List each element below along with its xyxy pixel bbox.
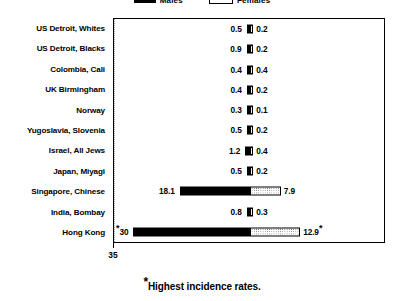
bar-rows: 0.50.20.90.20.40.40.40.20.30.10.50.21.20… <box>114 19 384 242</box>
bar-male <box>133 227 250 236</box>
footnote-text: Highest incidence rates. <box>148 281 261 292</box>
axis-tick-label: 35 <box>108 250 117 260</box>
axis-ticks <box>113 243 385 249</box>
bar-female <box>250 106 253 115</box>
bar-female <box>250 126 253 135</box>
bar-row: 0.50.2 <box>114 120 384 140</box>
value-label-female: 0.3 <box>256 207 267 217</box>
category-label: US Detroit, Whites <box>0 18 110 38</box>
value-label-female: 0.2 <box>256 85 267 95</box>
value-label-female: 7.9 <box>284 186 295 196</box>
bar-female <box>250 227 300 236</box>
value-label-female: 0.2 <box>256 24 267 34</box>
value-label-male: 0.5 <box>231 24 242 34</box>
value-label-female: 0.2 <box>256 166 267 176</box>
legend-label-females: Females <box>237 0 270 5</box>
bar-female <box>250 166 253 175</box>
bar-row: 0.50.2 <box>114 19 384 39</box>
category-label: UK Birmingham <box>0 79 110 99</box>
category-label: Norway <box>0 100 110 120</box>
bar-row: 18.17.9 <box>114 181 384 201</box>
bar-female <box>250 146 253 155</box>
category-label: Israel, All Jews <box>0 141 110 161</box>
value-label-male: 0.5 <box>231 166 242 176</box>
bar-row: *3012.9* <box>114 222 384 242</box>
value-label-female: 0.1 <box>256 105 267 115</box>
value-label-female: 12.9* <box>303 227 322 237</box>
bar-row: 1.20.4 <box>114 141 384 161</box>
chart-legend: Males Females <box>0 0 404 5</box>
category-label: Singapore, Chinese <box>0 182 110 202</box>
bar-row: 0.40.4 <box>114 60 384 80</box>
value-label-male: 0.3 <box>231 105 242 115</box>
category-label: Hong Kong <box>0 223 110 243</box>
star-marker-icon: * <box>319 223 322 233</box>
value-label-male: 0.4 <box>231 85 242 95</box>
bar-row: 0.40.2 <box>114 80 384 100</box>
footnote: *Highest incidence rates. <box>0 281 404 292</box>
value-label-female: 0.4 <box>256 65 267 75</box>
category-label: Japan, Miyagi <box>0 161 110 181</box>
value-label-male: 0.5 <box>231 125 242 135</box>
value-label-male: 0.4 <box>231 65 242 75</box>
value-label-male: *30 <box>116 227 128 237</box>
value-label-male: 0.9 <box>230 44 241 54</box>
category-label: Yugoslavia, Slovenia <box>0 120 110 140</box>
category-label: Colombia, Cali <box>0 59 110 79</box>
value-label-female: 0.2 <box>256 125 267 135</box>
bar-female <box>250 207 253 216</box>
legend-entry-males: Males <box>134 0 183 5</box>
legend-swatch-males-icon <box>134 0 156 3</box>
bar-row: 0.30.1 <box>114 100 384 120</box>
bar-female <box>250 85 253 94</box>
bar-row: 0.90.2 <box>114 39 384 59</box>
bar-row: 0.50.2 <box>114 161 384 181</box>
value-label-male: 18.1 <box>159 186 175 196</box>
legend-label-males: Males <box>160 0 183 5</box>
axis-tick <box>113 243 114 248</box>
bar-female <box>250 25 253 34</box>
star-marker-icon: * <box>116 223 119 233</box>
category-label: India, Bombay <box>0 202 110 222</box>
category-labels: US Detroit, WhitesUS Detroit, BlacksColo… <box>0 18 110 243</box>
bar-female <box>250 65 253 74</box>
bar-female <box>250 187 281 196</box>
value-label-male: 0.8 <box>231 207 242 217</box>
bar-female <box>250 45 253 54</box>
category-label: US Detroit, Blacks <box>0 38 110 58</box>
bar-male <box>180 187 250 196</box>
bar-row: 0.80.3 <box>114 201 384 221</box>
plot-area: 0.50.20.90.20.40.40.40.20.30.10.50.21.20… <box>113 18 385 243</box>
legend-swatch-females-icon <box>209 0 233 4</box>
legend-entry-females: Females <box>209 0 270 5</box>
value-label-male: 1.2 <box>229 146 240 156</box>
axis-tick-labels: 35 <box>113 250 385 264</box>
value-label-female: 0.4 <box>256 146 267 156</box>
chart-root: Males Females US Detroit, WhitesUS Detro… <box>0 0 404 301</box>
value-label-female: 0.2 <box>256 44 267 54</box>
